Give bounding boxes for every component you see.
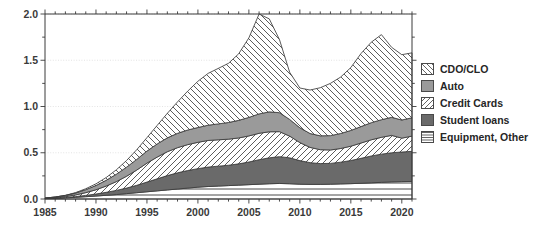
- legend-item-credit-cards[interactable]: Credit Cards: [421, 97, 528, 109]
- legend-label: CDO/CLO: [440, 63, 488, 75]
- y-axis-tick-label: 1.5: [23, 54, 38, 66]
- legend-item-cdo-clo[interactable]: CDO/CLO: [421, 63, 528, 75]
- y-axis-tick-label: 0.5: [23, 146, 38, 158]
- chart-legend: CDO/CLOAutoCredit CardsStudent loansEqui…: [421, 63, 528, 143]
- legend-item-student-loans[interactable]: Student loans: [421, 114, 528, 126]
- legend-swatch-student-loans-icon: [421, 114, 434, 126]
- legend-label: Auto: [440, 80, 464, 92]
- x-axis-tick-label: 2005: [237, 206, 261, 218]
- legend-label: Equipment, Other: [440, 131, 528, 143]
- legend-swatch-auto-icon: [421, 80, 434, 92]
- x-axis-tick-label: 2020: [390, 206, 414, 218]
- y-axis-tick-label: 1.0: [23, 100, 38, 112]
- legend-swatch-cdo-clo-icon: [421, 63, 434, 75]
- legend-swatch-credit-cards-icon: [421, 97, 434, 109]
- x-axis-tick-label: 2000: [186, 206, 210, 218]
- chart-container: 0.00.51.01.52.01985199019952000200520102…: [0, 0, 539, 235]
- x-axis-tick-label: 2015: [339, 206, 363, 218]
- y-axis-tick-label: 0.0: [23, 193, 38, 205]
- legend-item-auto[interactable]: Auto: [421, 80, 528, 92]
- x-axis-tick-label: 1985: [33, 206, 57, 218]
- legend-label: Student loans: [440, 114, 509, 126]
- x-axis-tick-label: 1995: [135, 206, 159, 218]
- y-axis-tick-label: 2.0: [23, 8, 38, 20]
- legend-swatch-equipment-other-icon: [421, 131, 434, 143]
- x-axis-tick-label: 1990: [84, 206, 108, 218]
- x-axis-tick-label: 2010: [288, 206, 312, 218]
- legend-label: Credit Cards: [440, 97, 503, 109]
- legend-item-equipment-other[interactable]: Equipment, Other: [421, 131, 528, 143]
